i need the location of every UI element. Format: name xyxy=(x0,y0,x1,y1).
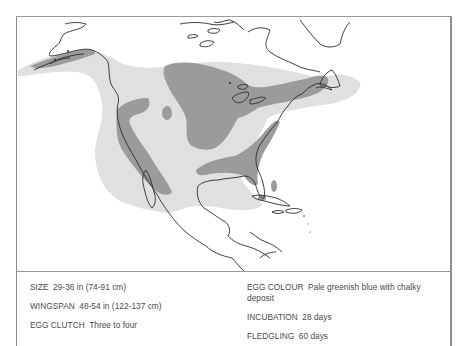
fact-value: 60 days xyxy=(299,331,328,341)
fact-incubation: INCUBATION28 days xyxy=(247,312,427,323)
fact-value: Three to four xyxy=(89,320,137,330)
fact-value: 28 days xyxy=(302,312,331,322)
fact-label: EGG CLUTCH xyxy=(30,320,85,330)
fact-label: INCUBATION xyxy=(247,312,298,322)
core-range-bahamas xyxy=(271,180,277,192)
fact-egg-colour: EGG COLOURPale greenish blue with chalky… xyxy=(247,282,447,304)
fact-label: WINGSPAN xyxy=(30,301,75,311)
fact-egg-clutch: EGG CLUTCHThree to four xyxy=(30,320,210,331)
facts-right-column: EGG COLOURPale greenish blue with chalky… xyxy=(247,272,447,342)
fact-fledgling: FLEDGLING60 days xyxy=(247,331,427,342)
fact-size: SIZE29-36 in (74-91 cm) xyxy=(30,282,210,293)
fact-label: FLEDGLING xyxy=(247,331,294,341)
facts-left-column: SIZE29-36 in (74-91 cm) WINGSPAN48-54 in… xyxy=(30,272,230,331)
fact-value: 48-54 in (122-137 cm) xyxy=(79,301,161,311)
fact-value: 29-36 in (74-91 cm) xyxy=(53,282,126,292)
core-range-patch xyxy=(162,106,172,120)
fact-label: SIZE xyxy=(30,282,49,292)
fact-wingspan: WINGSPAN48-54 in (122-137 cm) xyxy=(30,301,210,312)
range-map xyxy=(17,17,451,271)
fact-label: EGG COLOUR xyxy=(247,282,304,292)
species-facts: SIZE29-36 in (74-91 cm) WINGSPAN48-54 in… xyxy=(17,272,451,337)
